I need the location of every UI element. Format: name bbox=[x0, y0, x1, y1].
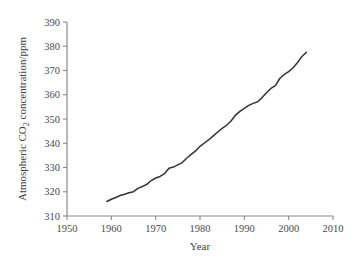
x-axis-tick-label: 2000 bbox=[278, 223, 299, 234]
y-axis-tick-label: 390 bbox=[44, 17, 60, 28]
y-axis-tick-label: 340 bbox=[44, 138, 60, 149]
y-axis-tick-label: 330 bbox=[44, 162, 60, 173]
y-axis-tick-label: 310 bbox=[44, 211, 60, 222]
x-axis-tick-labels: 1950196019701980199020002010 bbox=[57, 223, 344, 234]
x-axis-tick-label: 1950 bbox=[57, 223, 78, 234]
co2-data-line bbox=[107, 52, 307, 201]
x-axis-tick-label: 1970 bbox=[145, 223, 166, 234]
y-axis-tick-label: 350 bbox=[44, 114, 60, 125]
y-axis-tick-label: 360 bbox=[44, 89, 60, 100]
x-axis-tick-label: 1990 bbox=[234, 223, 255, 234]
x-axis-tick-label: 1960 bbox=[101, 223, 122, 234]
y-axis-tick-label: 370 bbox=[44, 65, 60, 76]
y-axis-title-post: concentration/ppm bbox=[16, 37, 28, 123]
chart-figure: 310320330340350360370380390 195019601970… bbox=[0, 0, 354, 268]
x-axis-title: Year bbox=[190, 240, 211, 252]
x-axis-tick-label: 1980 bbox=[190, 223, 211, 234]
y-axis-tick-label: 320 bbox=[44, 186, 60, 197]
y-axis-tick-label: 380 bbox=[44, 41, 60, 52]
x-axis-tick-label: 2010 bbox=[323, 223, 344, 234]
chart-canvas: 310320330340350360370380390 195019601970… bbox=[0, 0, 354, 268]
y-axis-title: Atmospheric CO2 concentration/ppm bbox=[16, 37, 31, 202]
y-axis-title-pre: Atmospheric CO bbox=[16, 126, 28, 201]
svg-text:Atmospheric CO2 concentration/: Atmospheric CO2 concentration/ppm bbox=[16, 37, 31, 202]
x-axis-ticks bbox=[67, 216, 333, 220]
y-axis-tick-labels: 310320330340350360370380390 bbox=[44, 17, 60, 222]
